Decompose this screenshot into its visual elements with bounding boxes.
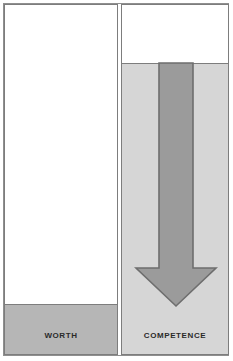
panel-worth: Worth [4,4,118,355]
comparison-figure: Worth Competence [0,0,233,361]
panel-label-worth: Worth [5,329,117,340]
competence-fill-bar [122,63,228,354]
panel-label-competence: Competence [122,329,228,340]
panel-competence: Competence [121,4,229,355]
